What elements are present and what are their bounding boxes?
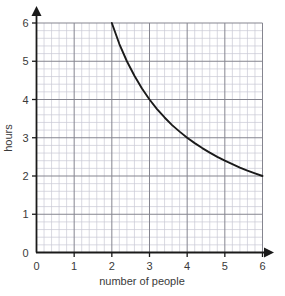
x-tick-label: 4 [184, 260, 190, 272]
y-axis-title: hours [2, 124, 14, 152]
line-chart: 0123456 0123456 number of people hours [0, 0, 285, 296]
y-tick-label: 3 [22, 132, 28, 144]
x-axis-title: number of people [99, 275, 185, 287]
x-tick-label: 3 [146, 260, 152, 272]
y-tick-label: 4 [22, 94, 28, 106]
y-tick-label: 5 [22, 55, 28, 67]
y-tick-label: 0 [22, 247, 28, 259]
y-tick-label: 1 [22, 208, 28, 220]
x-tick-label: 6 [259, 260, 265, 272]
x-tick-label: 5 [222, 260, 228, 272]
chart-container: 0123456 0123456 number of people hours [0, 0, 285, 296]
x-tick-label: 1 [71, 260, 77, 272]
y-tick-label: 2 [22, 170, 28, 182]
x-tick-label: 2 [109, 260, 115, 272]
x-tick-label: 0 [33, 260, 39, 272]
y-tick-label: 6 [22, 17, 28, 29]
